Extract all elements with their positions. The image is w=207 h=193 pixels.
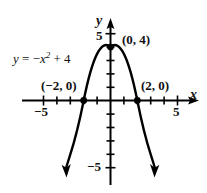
x-tick-label-neg5: −5 (34, 105, 48, 118)
vertex-dot (107, 44, 114, 51)
equation-constant-term: + 4 (50, 51, 70, 66)
right-intercept-point-label: (2, 0) (141, 79, 169, 92)
left-intercept-point-label: (−2, 0) (41, 79, 77, 92)
y-tick-label-5: 5 (96, 29, 103, 42)
equation-label: y = −x2 + 4 (13, 52, 71, 65)
x-axis-label: x (190, 88, 197, 102)
x-tick-label-5: 5 (173, 105, 180, 118)
right-intercept-dot (134, 97, 141, 104)
y-tick-label-neg5: −5 (87, 160, 101, 173)
parabola-figure: y = −x2 + 4 y x 5 −5 −5 5 (0, 4) (−2, 0)… (0, 0, 207, 193)
graph-canvas (0, 0, 207, 193)
equation-equals: = (19, 51, 33, 66)
equation-minus-sign: − (33, 51, 40, 66)
vertex-point-label: (0, 4) (122, 33, 150, 46)
left-intercept-dot (80, 97, 87, 104)
y-axis-label: y (96, 14, 102, 28)
